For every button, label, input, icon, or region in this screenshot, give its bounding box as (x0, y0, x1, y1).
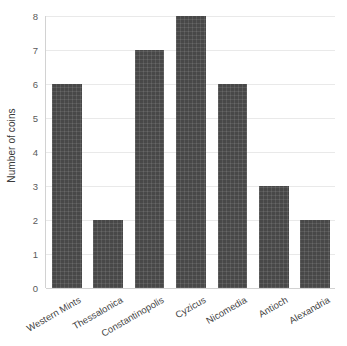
x-axis-tick-label: Alexandria (287, 294, 331, 326)
y-axis-tick-label: 1 (33, 249, 38, 260)
y-axis-title-label: Number of coins (6, 108, 17, 182)
y-axis-tick-labels: 012345678 (22, 10, 42, 290)
bars-layer (46, 16, 335, 288)
x-axis-tick-labels: Western MintsThessalonicaConstantinopoli… (45, 288, 335, 346)
y-axis-tick-label: 0 (33, 283, 38, 294)
bar (218, 84, 248, 288)
y-axis-tick-label: 7 (33, 45, 38, 56)
bar (52, 84, 82, 288)
bar (176, 16, 206, 288)
plot-area (45, 16, 335, 288)
y-axis-tick-label: 3 (33, 181, 38, 192)
x-axis-tick-label: Antioch (257, 294, 290, 319)
x-axis-tick-label: Nicomedia (204, 294, 248, 326)
bar (300, 220, 330, 288)
y-axis-tick-label: 5 (33, 113, 38, 124)
bar (259, 186, 289, 288)
bar (93, 220, 123, 288)
y-axis-tick-label: 4 (33, 147, 38, 158)
x-axis-tick-label: Cyzicus (173, 294, 207, 320)
y-axis-tick-label: 6 (33, 79, 38, 90)
bar-chart: Number of coins 012345678 Western MintsT… (0, 0, 347, 346)
bar (135, 50, 165, 288)
y-axis-tick-label: 8 (33, 11, 38, 22)
y-axis-title: Number of coins (0, 0, 22, 290)
y-axis-tick-label: 2 (33, 215, 38, 226)
